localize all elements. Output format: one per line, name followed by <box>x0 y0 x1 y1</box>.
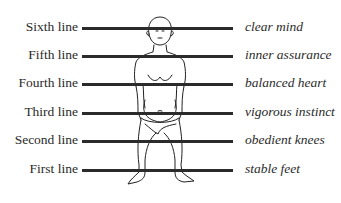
line-1-bar <box>82 169 233 172</box>
line-4-meaning: balanced heart <box>245 75 326 91</box>
line-6-bar <box>82 27 233 30</box>
line-4-label: Fourth line <box>18 75 78 91</box>
line-2-label: Second line <box>15 132 78 148</box>
line-2-bar <box>82 140 233 143</box>
line-1-meaning: stable feet <box>245 161 300 177</box>
line-3-label: Third line <box>24 104 78 120</box>
line-5-bar <box>82 55 233 58</box>
line-1-label: First line <box>30 161 78 177</box>
line-6-label: Sixth line <box>26 19 78 35</box>
line-6-meaning: clear mind <box>245 19 303 35</box>
line-5-meaning: inner assurance <box>245 47 332 63</box>
line-5-label: Fifth line <box>28 47 78 63</box>
line-3-meaning: vigorous instinct <box>245 104 335 120</box>
line-4-bar <box>82 83 233 86</box>
line-3-bar <box>82 112 233 115</box>
line-2-meaning: obedient knees <box>245 132 325 148</box>
